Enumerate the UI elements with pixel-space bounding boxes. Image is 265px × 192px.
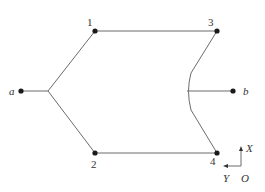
terminal-a-label: a bbox=[9, 86, 15, 97]
x-axis-label: X bbox=[246, 143, 253, 154]
node-3-label: 3 bbox=[208, 17, 214, 28]
terminal-b-label: b bbox=[243, 86, 249, 97]
y-axis-label: Y bbox=[223, 173, 229, 184]
terminal-a-dot bbox=[18, 88, 23, 93]
node-2-label: 2 bbox=[91, 159, 97, 170]
terminal-b-dot bbox=[230, 88, 235, 93]
x-axis-arrow-icon bbox=[239, 146, 243, 151]
node-1-label: 1 bbox=[87, 17, 93, 28]
edge-3-4-curve bbox=[189, 31, 218, 153]
edge-junction-1 bbox=[48, 31, 95, 91]
diagram-graphics bbox=[0, 0, 265, 192]
y-axis-arrow-icon bbox=[223, 164, 228, 168]
node-4-label: 4 bbox=[210, 156, 216, 167]
origin-label: O bbox=[241, 173, 249, 184]
node-2-dot bbox=[92, 150, 97, 155]
node-1-dot bbox=[92, 28, 97, 33]
network-diagram: a b 1 2 3 4 X Y O bbox=[0, 0, 265, 192]
node-3-dot bbox=[214, 28, 219, 33]
edge-junction-2 bbox=[48, 91, 95, 153]
